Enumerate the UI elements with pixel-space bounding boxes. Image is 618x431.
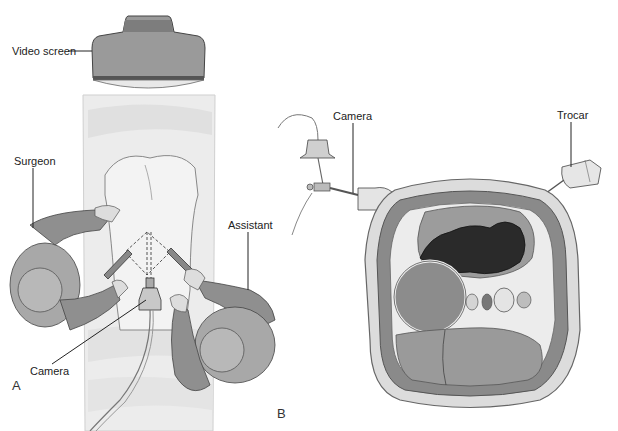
panel-letter-a: A xyxy=(12,378,21,393)
panel-letter-b: B xyxy=(277,406,286,421)
laparoscopy-figure: Video screen Surgeon Assistant Camera A … xyxy=(0,0,618,431)
label-camera-a: Camera xyxy=(30,365,69,377)
panel-b-illustration xyxy=(278,115,601,408)
label-trocar: Trocar xyxy=(557,109,588,121)
label-surgeon: Surgeon xyxy=(14,155,56,167)
label-assistant: Assistant xyxy=(228,219,273,231)
label-camera-b: Camera xyxy=(333,110,372,122)
video-screen-icon xyxy=(92,16,205,88)
abdominal-cross-section xyxy=(365,179,580,408)
label-video-screen: Video screen xyxy=(12,45,76,57)
